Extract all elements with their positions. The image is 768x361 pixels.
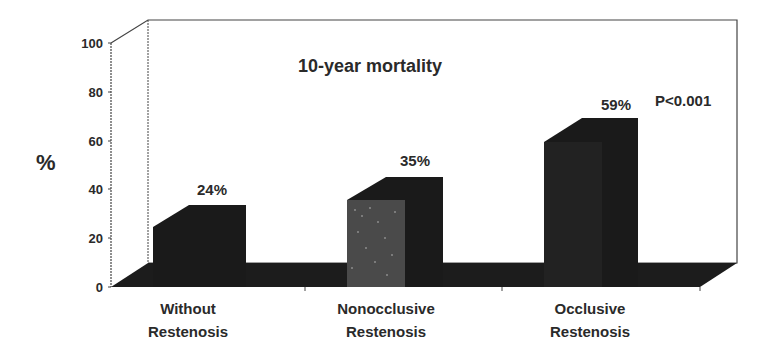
svg-text:Restenosis: Restenosis (550, 323, 630, 340)
svg-text:Occlusive: Occlusive (555, 300, 626, 317)
y-axis-label: % (36, 150, 56, 175)
x-tick-labels: Without Restenosis Nonocclusive Restenos… (148, 300, 630, 340)
p-value-annotation: P<0.001 (655, 92, 711, 109)
value-label: 59% (601, 96, 631, 113)
bar-without-restenosis (153, 205, 246, 287)
y-tick-labels: 0 20 40 60 80 100 (81, 36, 103, 295)
svg-text:20: 20 (89, 231, 103, 246)
svg-text:60: 60 (89, 134, 103, 149)
bar-nonocclusive-restenosis (347, 177, 443, 287)
value-label: 35% (400, 152, 430, 169)
svg-text:Without: Without (160, 300, 216, 317)
chart-title: 10-year mortality (298, 56, 442, 76)
svg-text:Restenosis: Restenosis (346, 323, 426, 340)
svg-text:0: 0 (96, 280, 103, 295)
svg-text:40: 40 (89, 182, 103, 197)
chart: 0 20 40 60 80 100 % 24% 35% 59% 10-y (0, 0, 768, 361)
svg-text:Restenosis: Restenosis (148, 323, 228, 340)
svg-text:100: 100 (81, 36, 103, 51)
svg-text:80: 80 (89, 85, 103, 100)
svg-text:Nonocclusive: Nonocclusive (337, 300, 435, 317)
x-tick-marks (305, 287, 700, 291)
value-label: 24% (197, 181, 227, 198)
bar-occlusive-restenosis (544, 118, 638, 287)
